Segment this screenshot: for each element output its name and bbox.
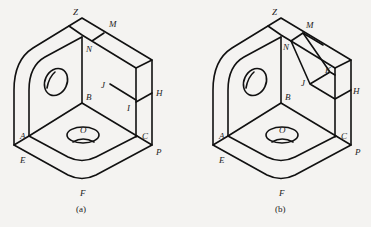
label-H: H	[352, 86, 360, 96]
label-M: M	[108, 19, 117, 29]
label-I: I	[126, 103, 131, 113]
label-O: O	[80, 125, 87, 135]
outer-outline	[213, 18, 351, 179]
label-P: P	[155, 147, 162, 157]
figure-b: Z M N J K H B A C O E P F (b)	[213, 7, 361, 214]
label-K: K	[324, 65, 332, 75]
label-F: F	[278, 188, 285, 198]
inner-wall-edge	[29, 37, 82, 136]
label-C: C	[142, 131, 149, 141]
wall-hole	[239, 65, 271, 100]
edge-IH	[136, 93, 152, 102]
label-B: B	[86, 92, 92, 102]
wall-hole	[40, 65, 72, 100]
label-Z: Z	[73, 7, 79, 17]
label-O: O	[279, 125, 286, 135]
figure-a: Z M N J H I B A C O E P F (a)	[14, 7, 163, 214]
label-N: N	[85, 44, 93, 54]
wall-top-edge	[268, 26, 323, 45]
label-B: B	[285, 92, 291, 102]
inner-wall-edge	[228, 37, 281, 136]
label-J: J	[101, 80, 106, 90]
caption-a: (a)	[76, 204, 86, 214]
label-A: A	[19, 131, 26, 141]
label-A: A	[218, 131, 225, 141]
label-M: M	[305, 20, 314, 30]
label-E: E	[218, 155, 225, 165]
label-C: C	[341, 131, 348, 141]
label-J: J	[301, 78, 306, 88]
label-F: F	[79, 188, 86, 198]
edge-JI	[110, 84, 136, 100]
label-P: P	[354, 147, 361, 157]
label-N: N	[282, 42, 290, 52]
label-H: H	[155, 88, 163, 98]
outer-outline	[14, 18, 152, 179]
label-Z: Z	[272, 7, 278, 17]
caption-b: (b)	[275, 204, 286, 214]
diagram-canvas: Z M N J H I B A C O E P F (a) Z M N J	[0, 0, 371, 227]
label-E: E	[19, 155, 26, 165]
